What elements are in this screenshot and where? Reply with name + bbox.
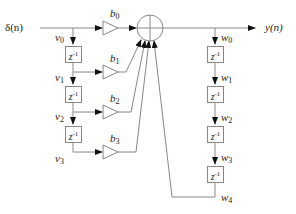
delay-block-right-4: z-1: [207, 166, 224, 183]
delay-block-right-1: z-1: [207, 46, 224, 63]
gain-b3-label: b3: [110, 133, 120, 146]
delay-block-left-2: z-1: [65, 86, 82, 103]
gain-b2-label: b2: [110, 93, 120, 106]
gain-b2-triangle: [103, 105, 118, 119]
gain-b0-triangle: [103, 21, 118, 35]
node-w2-label: w2: [221, 112, 232, 125]
node-w1-label: w1: [221, 72, 232, 85]
signal-flow-diagram: [0, 0, 296, 214]
gain-b3-triangle: [103, 145, 118, 159]
node-v1-label: v1: [55, 72, 64, 85]
gain-b1-triangle: [103, 65, 118, 79]
output-label: y(n): [265, 22, 283, 33]
delay-block-left-3: z-1: [65, 126, 82, 143]
input-label: δ(n): [5, 22, 23, 33]
node-w3-label: w3: [221, 152, 232, 165]
node-v0-label: v0: [55, 32, 64, 45]
delay-block-right-3: z-1: [207, 126, 224, 143]
gain-b0-label: b0: [110, 8, 120, 21]
node-v2-label: v2: [55, 111, 64, 124]
node-w4-label: w4: [221, 192, 232, 205]
delay-block-right-2: z-1: [207, 86, 224, 103]
delay-block-left-1: z-1: [65, 46, 82, 63]
node-w0-label: w0: [221, 32, 232, 45]
gain-b1-label: b1: [110, 53, 120, 66]
node-v3-label: v3: [55, 153, 64, 166]
